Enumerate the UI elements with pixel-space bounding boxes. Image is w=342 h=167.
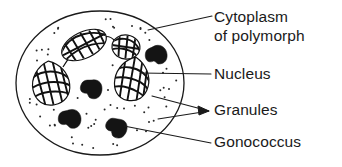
granule-dot (110, 18, 112, 20)
label-group-cytoplasm: Cytoplasmof polymorph (148, 8, 305, 44)
granule-dot (140, 27, 142, 29)
granule-dot (72, 143, 74, 145)
granule-dot (71, 136, 73, 138)
granule-dot (112, 143, 114, 145)
granule-dot (104, 109, 106, 111)
granule-dot (54, 124, 56, 126)
granule-dot (29, 102, 31, 104)
granule-dot (148, 121, 150, 123)
granule-dot (116, 144, 118, 146)
label-granules: Granules (214, 101, 278, 118)
label-nucleus: Nucleus (214, 65, 271, 82)
granule-dot (53, 109, 55, 111)
granule-dot (131, 25, 133, 27)
granule-dot (29, 98, 31, 100)
granule-dot (41, 49, 43, 51)
granule-dot (112, 64, 114, 66)
granule-dot (148, 107, 150, 109)
granule-dot (136, 129, 138, 131)
granule-dot (165, 105, 167, 107)
granule-dot (116, 107, 118, 109)
granule-dot (107, 89, 109, 91)
granule-dot (95, 119, 97, 121)
granule-dot (164, 96, 166, 98)
leader-arrowhead-granules (198, 106, 209, 115)
granule-dot (36, 104, 38, 106)
label-cytoplasm-line2: of polymorph (214, 27, 305, 44)
granule-dot (86, 113, 88, 115)
granule-dot (47, 48, 49, 50)
granule-dot (49, 125, 51, 127)
granule-dot (159, 89, 161, 91)
label-cytoplasm: Cytoplasm (214, 8, 288, 25)
granule-dot (113, 27, 115, 29)
granule-dot (57, 27, 59, 29)
granule-dot (148, 39, 150, 41)
granule-dot (92, 147, 94, 149)
granule-dot (90, 125, 92, 127)
granule-dot (143, 111, 145, 113)
granule-dot (36, 50, 38, 52)
polymorph-diagram: Cytoplasmof polymorphNucleusGranulesGono… (0, 0, 342, 167)
granule-dot (77, 97, 79, 99)
granule-dot (105, 18, 107, 20)
granule-dot (123, 107, 125, 109)
granule-dot (87, 127, 89, 129)
granule-dot (163, 87, 165, 89)
granule-dot (134, 105, 136, 107)
leader-line-cytoplasm (148, 16, 212, 30)
granule-dot (110, 104, 112, 106)
granule-dot (175, 80, 177, 82)
granule-dot (166, 68, 168, 70)
granule-dot (47, 53, 49, 55)
granule-dot (39, 115, 41, 117)
granule-dot (93, 123, 95, 125)
granule-dot (53, 32, 55, 34)
label-gonococcus: Gonococcus (214, 133, 301, 150)
diagram-canvas: Cytoplasmof polymorphNucleusGranulesGono… (0, 0, 342, 167)
granule-dot (36, 60, 38, 62)
granule-dot (144, 32, 146, 34)
granule-dot (168, 88, 170, 90)
granule-dot (81, 144, 83, 146)
granule-dot (153, 120, 155, 122)
